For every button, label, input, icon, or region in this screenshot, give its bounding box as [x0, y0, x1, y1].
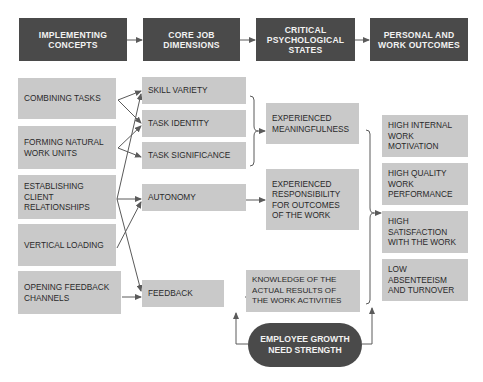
moderator-employee-growth-need-strength: EMPLOYEE GROWTH NEED STRENGTH: [248, 323, 362, 367]
dimension-feedback: FEEDBACK: [142, 280, 224, 307]
outcome-low-absenteeism-turnover: LOW ABSENTEEISM AND TURNOVER: [382, 259, 468, 301]
outcome-high-internal-work-motivation: HIGH INTERNAL WORK MOTIVATION: [382, 115, 468, 157]
concept-combining-tasks: COMBINING TASKS: [18, 78, 116, 119]
concept-forming-natural-work-units: FORMING NATURAL WORK UNITS: [18, 126, 116, 169]
header-core-job-dimensions: CORE JOB DIMENSIONS: [143, 18, 240, 61]
concept-establishing-client-relationships: ESTABLISHING CLIENT RELATIONSHIPS: [18, 175, 116, 219]
header-personal-work-outcomes: PERSONAL AND WORK OUTCOMES: [370, 18, 468, 61]
state-experienced-meaningfulness: EXPERIENCED MEANINGFULNESS: [266, 103, 359, 144]
header-implementing-concepts: IMPLEMENTING CONCEPTS: [19, 18, 127, 61]
outcome-high-satisfaction: HIGH SATISFACTION WITH THE WORK: [382, 211, 468, 253]
state-experienced-responsibility: EXPERIENCED RESPONSIBILITY FOR OUTCOMES …: [266, 169, 359, 230]
concept-opening-feedback-channels: OPENING FEEDBACK CHANNELS: [18, 271, 121, 314]
state-knowledge-of-results: KNOWLEDGE OF THE ACTUAL RESULTS OF THE W…: [246, 270, 360, 312]
dimension-skill-variety: SKILL VARIETY: [142, 77, 246, 104]
dimension-task-significance: TASK SIGNIFICANCE: [142, 142, 246, 169]
header-critical-psychological-states: CRITICAL PSYCHOLOGICAL STATES: [256, 18, 355, 61]
outcome-high-quality-work-performance: HIGH QUALITY WORK PERFORMANCE: [382, 163, 468, 205]
dimension-autonomy: AUTONOMY: [142, 184, 246, 211]
dimension-task-identity: TASK IDENTITY: [142, 110, 246, 137]
concept-vertical-loading: VERTICAL LOADING: [18, 224, 116, 266]
